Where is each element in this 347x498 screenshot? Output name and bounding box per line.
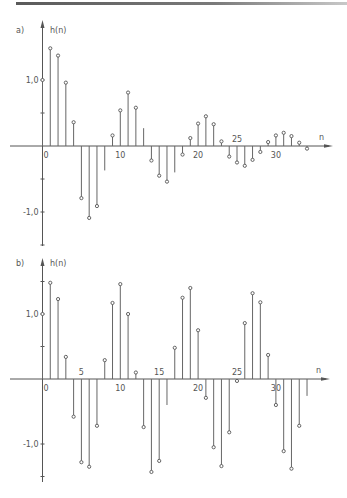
stem-marker (282, 131, 285, 134)
stem-marker (181, 153, 184, 156)
stem-marker (142, 426, 145, 429)
stem-marker (189, 286, 192, 289)
stem-marker (134, 106, 137, 109)
stem-marker (64, 355, 67, 358)
panel-label: a) (16, 26, 24, 35)
stem-marker (235, 379, 238, 382)
stem-marker (41, 78, 44, 81)
y-tick-label: -1,0 (23, 440, 39, 449)
stem-marker (298, 424, 301, 427)
stem-marker (56, 297, 59, 300)
x-axis-arrow-icon (321, 377, 330, 381)
stem-marker (220, 465, 223, 468)
stem-marker (80, 461, 83, 464)
x-tick-label: 25 (232, 135, 242, 144)
stem-marker (72, 121, 75, 124)
stem-marker (158, 174, 161, 177)
stem-marker (95, 204, 98, 207)
stem-marker (212, 123, 215, 126)
stem-marker (165, 180, 168, 183)
stem-marker (173, 346, 176, 349)
stem-marker (274, 403, 277, 406)
stem-marker (204, 115, 207, 118)
stem-marker (95, 424, 98, 427)
y-axis-arrow-icon (41, 258, 45, 266)
stem-marker (305, 147, 308, 150)
stem-plots-figure: a)h(n)n1,0-1,0010202530 b)h(n)n1,0-1,005… (0, 0, 347, 498)
stem-marker (119, 283, 122, 286)
stem-marker (189, 136, 192, 139)
x-tick-label: 10 (115, 151, 125, 160)
y-axis-arrow-icon (41, 20, 45, 28)
panel-b-chart: b)h(n)n1,0-1,0051015202530 (10, 258, 330, 482)
x-tick-label: 0 (44, 151, 49, 160)
stem-marker (274, 134, 277, 137)
stem-marker (197, 329, 200, 332)
stem-marker (49, 281, 52, 284)
stem-marker (197, 122, 200, 125)
stem-marker (243, 164, 246, 167)
x-tick-label: 30 (271, 151, 281, 160)
stem-marker (204, 396, 207, 399)
x-axis-label: n (319, 133, 324, 142)
y-tick-label: 1,0 (26, 76, 39, 85)
stem-marker (150, 470, 153, 473)
y-axis-label: h(n) (50, 26, 66, 35)
stem-marker (80, 197, 83, 200)
stem-marker (88, 216, 91, 219)
stem-marker (290, 467, 293, 470)
x-tick-label: 0 (44, 384, 49, 393)
stem-marker (158, 459, 161, 462)
stem-marker (134, 371, 137, 374)
x-axis-arrow-icon (324, 144, 333, 148)
stem-marker (220, 140, 223, 143)
stem-marker (49, 47, 52, 50)
y-tick-label: 1,0 (26, 310, 39, 319)
stem-marker (298, 141, 301, 144)
stem-marker (181, 296, 184, 299)
x-tick-label: 20 (193, 151, 203, 160)
stem-marker (282, 450, 285, 453)
stem-marker (251, 158, 254, 161)
stem-marker (119, 109, 122, 112)
x-tick-label: 25 (232, 368, 242, 377)
x-tick-label: 15 (154, 368, 164, 377)
stem-marker (267, 353, 270, 356)
stem-marker (228, 431, 231, 434)
panel-label: b) (16, 259, 24, 268)
y-tick-label: -1,0 (23, 208, 39, 217)
x-tick-label: 5 (79, 368, 84, 377)
stem-marker (103, 359, 106, 362)
stem-marker (126, 312, 129, 315)
stem-marker (126, 91, 129, 94)
x-tick-label: 20 (193, 384, 203, 393)
x-axis-label: n (316, 366, 321, 375)
panel-a-chart: a)h(n)n1,0-1,0010202530 (10, 20, 333, 246)
stem-marker (259, 150, 262, 153)
stem-marker (111, 134, 114, 137)
stem-marker (64, 81, 67, 84)
stem-marker (212, 446, 215, 449)
stem-marker (41, 312, 44, 315)
stem-marker (111, 301, 114, 304)
x-tick-label: 10 (115, 384, 125, 393)
stem-marker (235, 161, 238, 164)
y-axis-label: h(n) (50, 259, 66, 268)
stem-marker (150, 159, 153, 162)
stem-marker (56, 54, 59, 57)
stem-marker (267, 140, 270, 143)
stem-marker (228, 155, 231, 158)
stem-marker (259, 301, 262, 304)
stem-marker (290, 135, 293, 138)
stem-marker (243, 322, 246, 325)
stem-marker (72, 415, 75, 418)
stem-marker (251, 292, 254, 295)
stem-marker (88, 465, 91, 468)
